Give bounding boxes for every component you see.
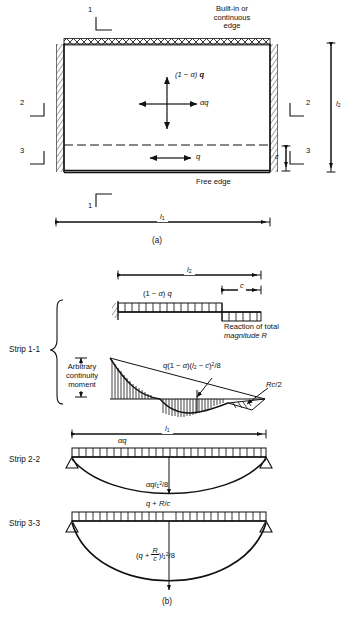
strip33-load-ticks (79, 512, 260, 521)
strip11-name: Strip 1-1 (9, 345, 40, 354)
load-label-vertical: (1 − α) q (175, 71, 204, 80)
panel-b-label: (b) (152, 597, 182, 606)
dim-label-c-b: c (238, 282, 246, 291)
free-edge-label: Free edge (196, 178, 231, 187)
panel-a-label: (a) (142, 236, 172, 245)
strip22-beam (66, 448, 272, 494)
reaction-label: Reaction of total magnitude R (224, 323, 279, 341)
section-label-right-2: 2 (306, 99, 310, 108)
continuity-moment-label: Arbitrary continuity moment (62, 362, 102, 389)
built-in-edge-label: Built-in or continuous edge (186, 5, 278, 31)
section-label-bottom-1: 1 (88, 202, 92, 211)
section-label-right-3: 3 (306, 147, 310, 156)
strip33-load-label: q + R/c (146, 500, 170, 509)
strip22-load-label: αq (118, 437, 127, 446)
dim-label-c-a: c (275, 153, 279, 162)
strip22-moment-label: αql12/8 (146, 481, 168, 490)
dim-label-l1-strip22: l1 (162, 425, 173, 434)
load-label-horizontal: αq (200, 99, 209, 108)
strip11-moment-cantilever-label: Rc/2 (266, 381, 282, 390)
dim-label-l1-a: l1 (157, 213, 168, 222)
section-label-left-3: 3 (20, 147, 24, 156)
figure-strip-method: Built-in or continuous edge 1 1 2 3 2 3 … (0, 0, 354, 620)
strip11-load-diagram (112, 301, 261, 321)
dim-label-l2-b: l2 (184, 266, 195, 275)
load-label-strip3: q (196, 153, 200, 162)
strip11-load-label: (1 − α) q (143, 290, 172, 299)
section-label-top-1: 1 (88, 6, 92, 15)
section-label-left-2: 2 (20, 99, 24, 108)
strip33-moment-label: (q + Rc)l12/8 (136, 547, 175, 563)
strip22-name: Strip 2-2 (9, 455, 40, 464)
strip11-moment-span-label: q(1 − α)(l2 − c)2/8 (163, 362, 221, 371)
dim-label-l2-a: l2 (336, 100, 341, 109)
strip33-name: Strip 3-3 (9, 519, 40, 528)
strip22-load-ticks (79, 448, 261, 457)
figure-linework (0, 0, 354, 620)
